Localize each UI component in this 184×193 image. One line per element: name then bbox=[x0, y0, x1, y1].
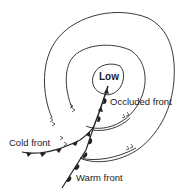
cold-front-label: Cold front bbox=[9, 137, 50, 148]
warm-front-label: Warm front bbox=[76, 172, 123, 183]
outer-isobar bbox=[44, 12, 174, 161]
middle-isobar bbox=[66, 45, 145, 128]
wind-arrows bbox=[50, 104, 133, 150]
low-pressure-label: Low bbox=[99, 71, 119, 82]
occluded-front-symbols bbox=[97, 88, 109, 122]
occluded-front-label: Occluded front bbox=[110, 96, 172, 107]
